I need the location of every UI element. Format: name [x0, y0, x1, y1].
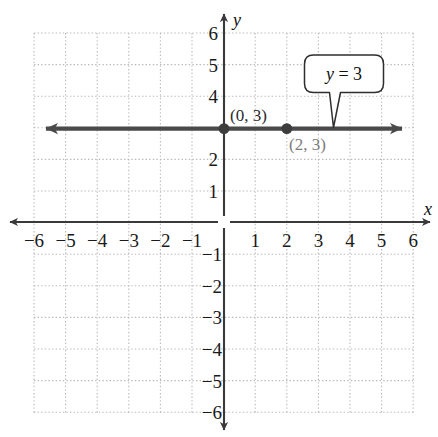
y-tick-label: 2 — [209, 150, 219, 169]
x-tick-label: 1 — [250, 231, 260, 250]
y-tick-label: −1 — [202, 245, 222, 264]
y-tick-label: −6 — [202, 403, 222, 422]
y-tick-label: 4 — [209, 87, 219, 106]
x-tick-label: −3 — [119, 231, 139, 250]
y-tick-label: −2 — [202, 276, 222, 295]
y-axis-label: y — [233, 11, 241, 29]
x-tick-label: 2 — [282, 231, 292, 250]
x-tick-label: −2 — [150, 231, 170, 250]
y-tick-label: −4 — [202, 340, 222, 359]
x-tick-label: −5 — [55, 231, 75, 250]
x-tick-label: 6 — [408, 231, 418, 250]
y-tick-label: −5 — [202, 371, 222, 390]
callout-equation-rest: = 3 — [334, 64, 362, 84]
graph-figure: −6 −5 −4 −3 −2 −1 1 2 3 4 5 6 6 5 4 2 1 … — [0, 0, 438, 437]
y-tick-label: 1 — [209, 182, 219, 201]
y-tick-label: −3 — [202, 308, 222, 327]
x-tick-label: −1 — [182, 231, 202, 250]
y-tick-label: 6 — [209, 24, 219, 43]
callout-variable: y — [326, 64, 334, 84]
point-label-2-3: (2, 3) — [289, 136, 326, 153]
plot-point-2-3 — [281, 123, 292, 134]
x-tick-label: −6 — [24, 231, 44, 250]
x-tick-label: 3 — [314, 231, 324, 250]
plot-point-0-3 — [219, 123, 230, 134]
x-tick-label: 5 — [377, 231, 387, 250]
x-tick-label: 4 — [345, 231, 355, 250]
x-axis-label: x — [424, 200, 432, 218]
point-label-0-3: (0, 3) — [230, 107, 267, 124]
callout-equation-label: y = 3 — [326, 65, 362, 83]
y-tick-label: 5 — [209, 55, 219, 74]
x-tick-label: −4 — [87, 231, 107, 250]
